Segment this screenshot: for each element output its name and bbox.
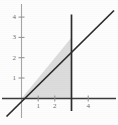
y-tick-label-1: 1: [13, 75, 17, 82]
x-tick-label-4: 4: [86, 103, 90, 110]
y-tick-label-3: 3: [13, 34, 17, 41]
shaded-triangle-region: [22, 38, 72, 99]
y-tick-label-2: 2: [13, 54, 17, 61]
graph-figure: 1 2 3 4 1 2 4: [0, 0, 118, 125]
x-tick-label-1: 1: [36, 103, 40, 110]
diagonal-line-y-equals-x: [7, 11, 115, 117]
coordinate-plane-plot: [0, 0, 118, 125]
x-tick-label-2: 2: [53, 103, 57, 110]
y-tick-label-4: 4: [13, 14, 17, 21]
